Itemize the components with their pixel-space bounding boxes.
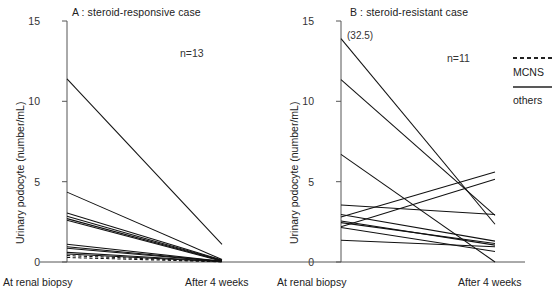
panel-b-axes [252, 21, 525, 262]
legend-group [513, 58, 552, 87]
series-line-b8 [341, 223, 495, 244]
series-line-a1 [67, 79, 222, 244]
series-line-b1 [341, 39, 495, 225]
series-line-b9 [341, 179, 495, 226]
figure-root: A : steroid-responsive case n=13 Urinary… [0, 0, 559, 300]
series-line-b10 [341, 227, 495, 251]
panel-a-series-group [67, 79, 222, 262]
panel-b-series-group [341, 39, 495, 262]
panel-a-axes [40, 21, 252, 262]
series-line-b5 [341, 215, 495, 242]
plot-canvas [0, 0, 559, 300]
